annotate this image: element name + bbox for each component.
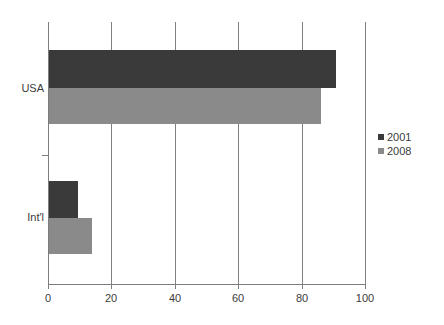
x-tick-label-80: 80 [282,292,322,304]
legend-swatch-icon-2001 [378,134,384,140]
legend-swatch-icon-2008 [378,148,384,154]
x-tick-80 [302,284,303,289]
legend-label-2008: 2008 [387,146,411,157]
x-axis-line [48,284,366,285]
category-label-usa: USA [0,82,44,94]
x-tick-40 [175,284,176,289]
x-tick-60 [238,284,239,289]
y-axis-line [48,22,49,285]
legend-label-2001: 2001 [387,132,411,143]
legend-item-2008: 2008 [378,144,411,158]
bar-intl-2008 [48,218,92,254]
bar-usa-2008 [48,88,321,124]
x-tick-label-20: 20 [91,292,131,304]
legend-item-2001: 2001 [378,130,411,144]
x-tick-label-0: 0 [28,292,68,304]
bar-usa-2001 [48,50,336,88]
category-label-intl: Int'l [0,211,44,223]
x-tick-label-40: 40 [155,292,195,304]
x-tick-0 [48,284,49,289]
x-tick-100 [365,284,366,289]
x-tick-label-60: 60 [218,292,258,304]
gridline-100 [365,22,366,284]
x-tick-label-100: 100 [345,292,385,304]
x-tick-20 [111,284,112,289]
plot-area [48,22,365,284]
y-axis-category-tick [42,155,48,156]
legend: 2001 2008 [378,130,411,158]
bar-chart: 0 20 40 60 80 100 USA Int'l 2001 2008 [0,0,444,325]
bar-intl-2001 [48,181,78,218]
